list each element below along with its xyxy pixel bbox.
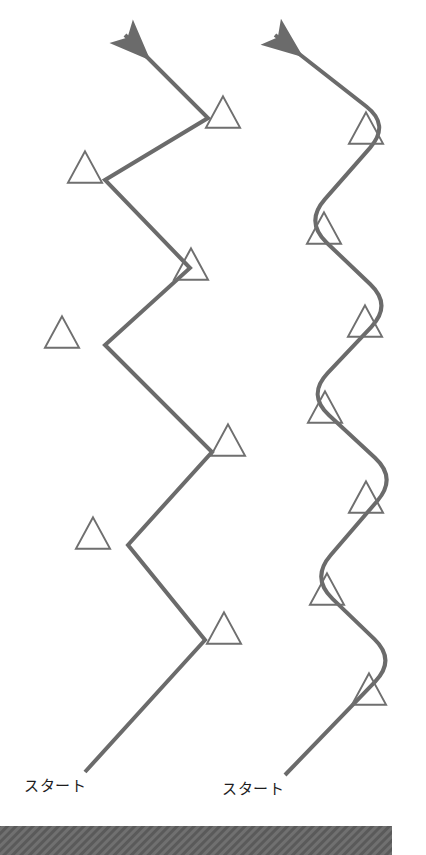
slalom-diagram: スタート スタート [0,0,426,855]
left-course-gates [45,96,245,643]
right-course-group [275,35,387,775]
gate-marker [68,151,102,182]
gate-marker [174,248,208,279]
gate-marker [308,391,342,422]
ground-bar [0,826,392,855]
right-start-label: スタート [222,780,284,798]
gate-marker [349,481,383,512]
right-course-gates [307,112,386,704]
left-course-group [45,35,245,772]
gate-marker [45,316,79,347]
gate-marker [207,612,241,643]
ground-bar-group [0,826,392,855]
gate-marker [76,517,110,548]
gate-marker [206,96,240,127]
left-course-path [85,35,212,772]
gate-marker [211,424,245,455]
diagram-canvas: スタート スタート [0,0,426,855]
right-course-path [275,35,387,775]
left-start-label: スタート [24,777,86,795]
